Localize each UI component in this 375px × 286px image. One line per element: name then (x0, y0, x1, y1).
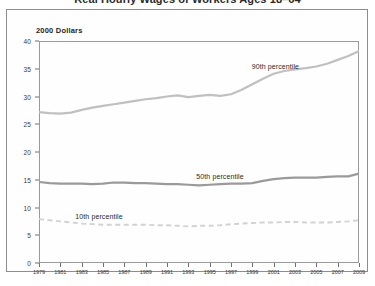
y-tick-mark (35, 235, 39, 236)
x-tick-mark (295, 263, 296, 267)
y-tick-mark (35, 41, 39, 42)
x-tick-mark (338, 263, 339, 267)
y-tick-mark (35, 68, 39, 69)
y-tick-mark (35, 179, 39, 180)
chart-outer-frame: 2000 Dollars 0510152025303540 1979198119… (6, 9, 368, 272)
x-tick-mark (231, 263, 232, 267)
y-tick-mark (35, 152, 39, 153)
y-tick-label: 5 (15, 232, 31, 239)
x-tick-mark (210, 263, 211, 267)
x-tick-mark (252, 263, 253, 267)
x-tick-mark (188, 263, 189, 267)
y-tick-label: 15 (15, 176, 31, 183)
x-tick-mark (39, 263, 40, 267)
x-tick-mark (359, 263, 360, 267)
x-tick-mark (124, 263, 125, 267)
x-tick-mark (316, 263, 317, 267)
plot-area (39, 41, 359, 263)
series-label-90th-percentile: 90th percentile (252, 63, 299, 70)
y-axis-unit-label: 2000 Dollars (36, 26, 83, 35)
x-tick-mark (167, 263, 168, 267)
x-tick-mark (60, 263, 61, 267)
y-tick-label: 10 (15, 204, 31, 211)
y-tick-mark (35, 124, 39, 125)
series-label-50th-percentile: 50th percentile (196, 173, 243, 180)
chart-canvas (39, 41, 359, 263)
y-tick-mark (35, 207, 39, 208)
y-tick-label: 25 (15, 121, 31, 128)
y-tick-label: 40 (15, 38, 31, 45)
series-line-10th-percentile (39, 219, 359, 226)
x-tick-mark (103, 263, 104, 267)
y-tick-label: 35 (15, 65, 31, 72)
y-tick-mark (35, 96, 39, 97)
x-tick-mark (274, 263, 275, 267)
y-tick-label: 30 (15, 93, 31, 100)
y-tick-label: 20 (15, 149, 31, 156)
series-label-10th-percentile: 10th percentile (75, 213, 122, 220)
series-line-90th-percentile (39, 51, 359, 114)
page-title: Real Hourly Wages of Workers Ages 18–64 (0, 0, 375, 5)
chart-title-strip: Real Hourly Wages of Workers Ages 18–64 (0, 0, 375, 9)
x-tick-mark (82, 263, 83, 267)
series-lines (39, 51, 359, 226)
x-tick-label: 2009 (347, 269, 371, 275)
x-tick-mark (146, 263, 147, 267)
y-tick-label: 0 (15, 260, 31, 267)
